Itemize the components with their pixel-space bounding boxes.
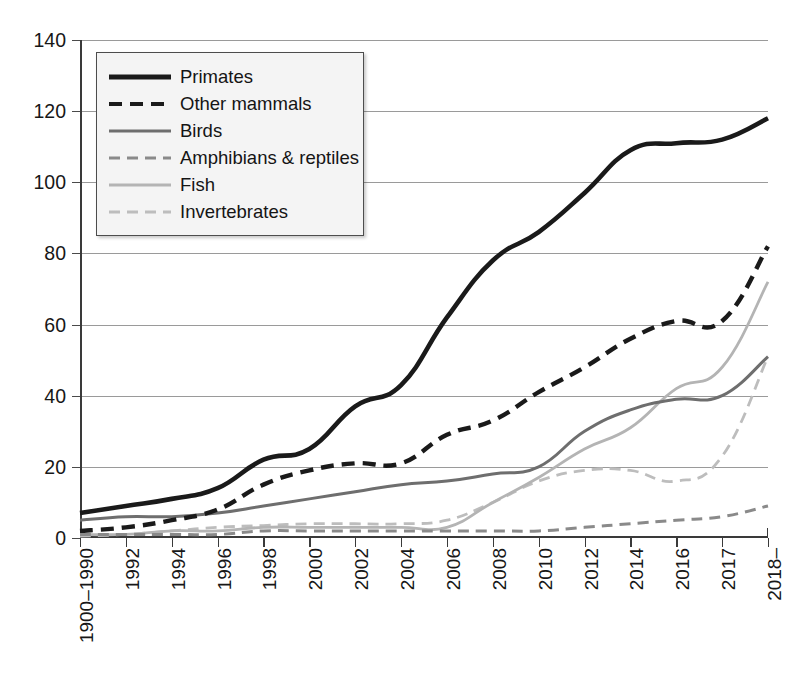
x-tick xyxy=(630,538,631,547)
legend-item-label: Primates xyxy=(180,66,253,88)
x-tick-label: 2017 xyxy=(718,548,740,590)
x-tick xyxy=(126,538,127,547)
x-tick xyxy=(585,538,586,547)
y-tick xyxy=(72,538,80,539)
x-tick xyxy=(676,538,677,547)
x-tick-label: 2006 xyxy=(443,548,465,590)
series-line-invertebrates xyxy=(80,357,768,537)
y-tick-label: 140 xyxy=(33,29,66,52)
x-tick xyxy=(401,538,402,547)
x-tick-label: 2000 xyxy=(305,548,327,590)
y-tick xyxy=(72,396,80,397)
series-line-other-mammals xyxy=(80,246,768,531)
x-tick-label: 2016 xyxy=(672,548,694,590)
legend-item-label: Amphibians & reptiles xyxy=(180,147,359,169)
x-tick-label: 2008 xyxy=(489,548,511,590)
x-tick-label: 1900–1990 xyxy=(76,548,98,643)
legend-line-swatch xyxy=(109,70,171,84)
legend-item[interactable]: Invertebrates xyxy=(109,198,353,225)
x-tick xyxy=(172,538,173,547)
legend-item[interactable]: Birds xyxy=(109,117,353,144)
y-tick-label: 100 xyxy=(33,171,66,194)
y-tick xyxy=(72,182,80,183)
legend-item[interactable]: Fish xyxy=(109,171,353,198)
x-tick-label: 1994 xyxy=(168,548,190,590)
x-tick-label: 2002 xyxy=(351,548,373,590)
y-tick-label: 80 xyxy=(44,242,66,265)
legend-item-label: Other mammals xyxy=(180,93,312,115)
legend-line-swatch xyxy=(109,205,171,219)
x-tick xyxy=(309,538,310,547)
y-tick xyxy=(72,111,80,112)
y-tick-label: 60 xyxy=(44,313,66,336)
x-tick xyxy=(539,538,540,547)
legend-item-label: Fish xyxy=(180,174,215,196)
x-tick xyxy=(447,538,448,547)
x-tick-label: 2004 xyxy=(397,548,419,590)
x-tick-label: 2018– xyxy=(764,548,786,601)
x-tick-label: 1996 xyxy=(214,548,236,590)
legend-item[interactable]: Other mammals xyxy=(109,90,353,117)
chart-legend: PrimatesOther mammalsBirdsAmphibians & r… xyxy=(96,52,364,236)
x-tick-label: 2012 xyxy=(581,548,603,590)
x-tick-label: 1998 xyxy=(259,548,281,590)
legend-item-label: Invertebrates xyxy=(180,201,288,223)
x-tick xyxy=(218,538,219,547)
y-tick-label: 40 xyxy=(44,384,66,407)
legend-item[interactable]: Amphibians & reptiles xyxy=(109,144,353,171)
legend-line-swatch xyxy=(109,151,171,165)
legend-line-swatch xyxy=(109,124,171,138)
y-tick xyxy=(72,325,80,326)
x-tick-label: 2014 xyxy=(626,548,648,590)
gridline xyxy=(80,538,768,539)
y-tick xyxy=(72,40,80,41)
legend-item[interactable]: Primates xyxy=(109,63,353,90)
x-tick xyxy=(768,538,769,547)
legend-item-label: Birds xyxy=(180,120,222,142)
x-tick xyxy=(355,538,356,547)
y-tick-label: 20 xyxy=(44,455,66,478)
x-tick xyxy=(263,538,264,547)
y-tick-label: 120 xyxy=(33,100,66,123)
legend-line-swatch xyxy=(109,97,171,111)
x-tick xyxy=(722,538,723,547)
legend-line-swatch xyxy=(109,178,171,192)
x-tick-label: 2010 xyxy=(535,548,557,590)
y-tick-label: 0 xyxy=(55,527,66,550)
y-tick xyxy=(72,253,80,254)
x-tick xyxy=(493,538,494,547)
x-tick xyxy=(80,538,81,547)
x-tick-label: 1992 xyxy=(122,548,144,590)
y-tick xyxy=(72,467,80,468)
